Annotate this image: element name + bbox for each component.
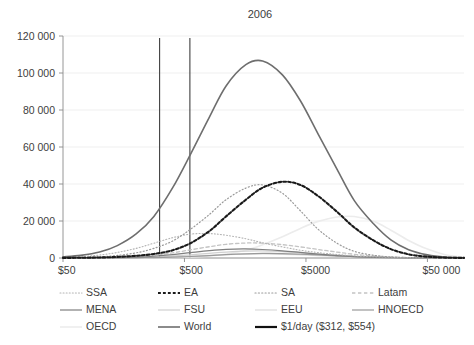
legend-label: FSU [184, 303, 205, 315]
chart-axes [59, 36, 464, 262]
x-axis-tick-labels: $50$500$5000$50 000 [58, 264, 461, 276]
poverty-line-annotations [160, 38, 190, 258]
y-tick-label: 20 000 [23, 215, 55, 227]
y-tick-label: 0 [49, 252, 55, 264]
legend-label: SSA [86, 286, 107, 298]
legend-label: OECD [86, 320, 117, 332]
legend-label: EA [184, 286, 198, 298]
chart-container: 020 00040 00060 00080 000100 000120 000 … [0, 0, 474, 345]
legend-item-fsu[interactable]: FSU [158, 303, 205, 315]
legend-item--1-day[interactable]: $1/day ($312, $554) [255, 320, 375, 332]
legend-label: SA [281, 286, 295, 298]
legend-item-oecd[interactable]: OECD [60, 320, 117, 332]
chart-gridlines [63, 36, 464, 258]
legend-label: HNOECD [378, 303, 424, 315]
chart-legend: SSAEASALatamMENAFSUEEUHNOECDOECDWorld$1/… [60, 286, 424, 332]
legend-label: Latam [378, 286, 407, 298]
x-tick-label: $50 [58, 264, 76, 276]
legend-label: $1/day ($312, $554) [281, 320, 375, 332]
legend-item-sa[interactable]: SA [255, 286, 295, 298]
y-tick-label: 100 000 [17, 67, 55, 79]
legend-item-mena[interactable]: MENA [60, 303, 116, 315]
legend-item-latam[interactable]: Latam [352, 286, 407, 298]
y-tick-label: 120 000 [17, 30, 55, 42]
legend-item-eeu[interactable]: EEU [255, 303, 303, 315]
legend-item-ssa[interactable]: SSA [60, 286, 107, 298]
x-tick-label: $5000 [301, 264, 330, 276]
series-line-oecd [63, 216, 464, 258]
y-tick-label: 40 000 [23, 178, 55, 190]
y-tick-label: 80 000 [23, 104, 55, 116]
legend-label: EEU [281, 303, 303, 315]
chart-series-lines [63, 60, 464, 258]
income-distribution-chart: 020 00040 00060 00080 000100 000120 000 … [0, 0, 474, 345]
series-line-ea [63, 182, 464, 258]
legend-item-world[interactable]: World [158, 320, 211, 332]
y-tick-label: 60 000 [23, 141, 55, 153]
legend-label: MENA [86, 303, 116, 315]
legend-item-ea[interactable]: EA [158, 286, 198, 298]
legend-item-hnoecd[interactable]: HNOECD [352, 303, 424, 315]
series-line-world [63, 60, 464, 258]
x-tick-label: $500 [179, 264, 203, 276]
chart-title: 2006 [248, 8, 272, 20]
legend-label: World [184, 320, 211, 332]
x-tick-label: $50 000 [422, 264, 460, 276]
y-axis-tick-labels: 020 00040 00060 00080 000100 000120 000 [17, 30, 55, 264]
